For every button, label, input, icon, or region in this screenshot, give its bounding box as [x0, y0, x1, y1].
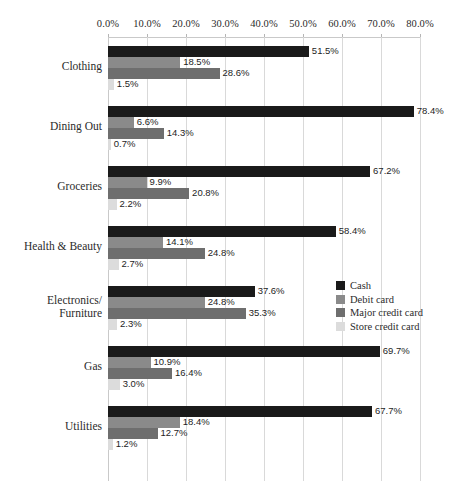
x-axis-tick-label: 30.0%	[211, 18, 239, 29]
bar-value-label: 67.2%	[373, 165, 400, 177]
bar-row: 28.6%	[108, 68, 420, 79]
bar-value-label: 1.5%	[117, 78, 139, 90]
x-axis-tick-label: 70.0%	[367, 18, 395, 29]
x-axis-tick-label: 40.0%	[250, 18, 278, 29]
category-label: Dining Out	[2, 120, 102, 134]
bar-row: 18.5%	[108, 57, 420, 68]
bar-row: 10.9%	[108, 357, 420, 368]
bar[interactable]	[108, 259, 119, 270]
legend-label: Store credit card	[350, 320, 419, 333]
bar-value-label: 14.1%	[166, 236, 193, 248]
bar-value-label: 20.8%	[192, 187, 219, 199]
legend-item[interactable]: Store credit card	[336, 320, 452, 333]
category-label: Gas	[2, 360, 102, 374]
category-label-line: Electronics/	[2, 294, 102, 308]
bar[interactable]	[108, 319, 117, 330]
x-axis-tick-label: 50.0%	[289, 18, 317, 29]
grouped-bar-chart: 0.0%10.0%20.0%30.0%40.0%50.0%60.0%70.0%8…	[0, 0, 452, 498]
legend-item[interactable]: Major credit card	[336, 306, 452, 319]
bar[interactable]	[108, 139, 111, 150]
legend-swatch-icon	[336, 295, 345, 304]
bar-value-label: 51.5%	[312, 45, 339, 57]
bar-value-label: 6.6%	[137, 116, 159, 128]
bar[interactable]	[108, 177, 147, 188]
legend-swatch-icon	[336, 322, 345, 331]
legend-label: Debit card	[350, 293, 394, 306]
bar-row: 3.0%	[108, 379, 420, 390]
legend-item[interactable]: Cash	[336, 279, 452, 292]
bar-row: 18.4%	[108, 417, 420, 428]
bar-row: 16.4%	[108, 368, 420, 379]
category-label-line: Furniture	[2, 307, 102, 321]
category-label: Electronics/Furniture	[2, 294, 102, 321]
bar-row: 9.9%	[108, 177, 420, 188]
bar-row: 58.4%	[108, 226, 420, 237]
chart-legend: CashDebit cardMajor credit cardStore cre…	[336, 279, 452, 333]
bar[interactable]	[108, 166, 370, 177]
bar-value-label: 0.7%	[114, 138, 136, 150]
bar-group: 58.4%14.1%24.8%2.7%	[108, 226, 420, 270]
x-axis-tickmark	[225, 34, 226, 37]
bar-row: 67.7%	[108, 406, 420, 417]
bar-value-label: 58.4%	[339, 225, 366, 237]
bar-row: 14.1%	[108, 237, 420, 248]
category-label: Utilities	[2, 420, 102, 434]
x-axis-tick-labels: 0.0%10.0%20.0%30.0%40.0%50.0%60.0%70.0%8…	[0, 18, 452, 32]
bar-group: 67.7%18.4%12.7%1.2%	[108, 406, 420, 450]
bar-value-label: 28.6%	[223, 67, 250, 79]
category-label: Clothing	[2, 60, 102, 74]
bar-value-label: 1.2%	[116, 438, 138, 450]
bar-row: 6.6%	[108, 117, 420, 128]
category-label: Groceries	[2, 180, 102, 194]
bar[interactable]	[108, 406, 372, 417]
bar-value-label: 3.0%	[123, 378, 145, 390]
bar-row: 14.3%	[108, 128, 420, 139]
bar[interactable]	[108, 199, 117, 210]
bar-value-label: 69.7%	[383, 345, 410, 357]
x-axis-tickmark	[186, 34, 187, 37]
bar[interactable]	[108, 357, 151, 368]
bar-row: 2.7%	[108, 259, 420, 270]
bar[interactable]	[108, 439, 113, 450]
bar-row: 0.7%	[108, 139, 420, 150]
bar[interactable]	[108, 79, 114, 90]
x-axis-tick-label: 80.0%	[406, 18, 434, 29]
x-axis-tick-label: 60.0%	[328, 18, 356, 29]
bar-value-label: 18.5%	[183, 56, 210, 68]
legend-item[interactable]: Debit card	[336, 293, 452, 306]
bar[interactable]	[108, 57, 180, 68]
x-axis-tick-label: 0.0%	[97, 18, 119, 29]
bar-value-label: 12.7%	[161, 427, 188, 439]
bar[interactable]	[108, 297, 205, 308]
bar-group: 67.2%9.9%20.8%2.2%	[108, 166, 420, 210]
x-axis-tickmark	[147, 34, 148, 37]
x-axis-tickmark	[342, 34, 343, 37]
bar[interactable]	[108, 117, 134, 128]
bar-value-label: 2.3%	[120, 318, 142, 330]
bar[interactable]	[108, 226, 336, 237]
bar-value-label: 78.4%	[417, 105, 444, 117]
bar[interactable]	[108, 237, 163, 248]
gridline	[420, 37, 421, 481]
bar[interactable]	[108, 379, 120, 390]
x-axis-tick-label: 10.0%	[133, 18, 161, 29]
bar-value-label: 24.8%	[208, 247, 235, 259]
x-axis-tickmark	[264, 34, 265, 37]
bar[interactable]	[108, 346, 380, 357]
bar-group: 51.5%18.5%28.6%1.5%	[108, 46, 420, 90]
category-label: Health & Beauty	[2, 240, 102, 254]
category-axis-labels: ClothingDining OutGroceriesHealth & Beau…	[0, 37, 102, 481]
bar-row: 20.8%	[108, 188, 420, 199]
bar-row: 51.5%	[108, 46, 420, 57]
x-axis-tickmark	[420, 34, 421, 37]
x-axis-tick-label: 20.0%	[172, 18, 200, 29]
legend-swatch-icon	[336, 281, 345, 290]
bar-row: 12.7%	[108, 428, 420, 439]
bar-value-label: 14.3%	[167, 127, 194, 139]
bar-group: 69.7%10.9%16.4%3.0%	[108, 346, 420, 390]
legend-swatch-icon	[336, 308, 345, 317]
bar-group: 78.4%6.6%14.3%0.7%	[108, 106, 420, 150]
x-axis-tickmark	[381, 34, 382, 37]
bar-value-label: 24.8%	[208, 296, 235, 308]
bar-row: 1.2%	[108, 439, 420, 450]
